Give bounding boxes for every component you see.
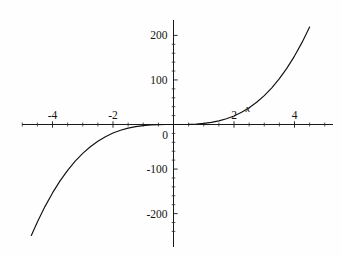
- origin-tick-label: 0: [162, 129, 168, 141]
- y-axis-ticks: [172, 35, 178, 231]
- x-tick-label: 2: [231, 109, 237, 121]
- axes-group: [22, 20, 333, 247]
- y-tick-label: -100: [146, 163, 167, 175]
- cubic-curve: [31, 27, 309, 235]
- cubic-function-plot: -4-224 -200-100100200 0 x: [0, 0, 342, 256]
- y-tick-label: -200: [146, 208, 167, 220]
- x-tick-label: -2: [108, 109, 118, 121]
- x-tick-label: -4: [48, 109, 58, 121]
- plot-canvas: -4-224 -200-100100200 0 x: [0, 0, 342, 256]
- y-tick-label: 200: [150, 29, 168, 41]
- x-axis-tick-labels: -4-224: [48, 109, 298, 121]
- x-tick-label: 4: [292, 109, 298, 121]
- y-tick-label: 100: [150, 74, 168, 86]
- x-axis-label: x: [245, 102, 251, 114]
